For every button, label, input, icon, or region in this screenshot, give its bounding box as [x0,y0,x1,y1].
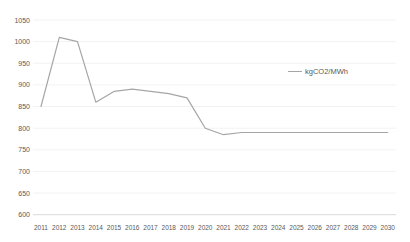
x-tick-label: 2012 [52,224,67,231]
x-tick-label: 2018 [162,224,177,231]
x-tick-label: 2029 [362,224,377,231]
x-tick-label: 2024 [271,224,286,231]
y-tick-label: 950 [18,60,30,67]
y-tick-label: 650 [18,190,30,197]
x-tick-label: 2019 [180,224,195,231]
legend: kgCO2/MWh [288,66,348,76]
y-tick-label: 600 [18,211,30,218]
legend-label: kgCO2/MWh [305,67,348,76]
x-tick-label: 2022 [235,224,250,231]
y-tick-label: 900 [18,81,30,88]
y-tick-label: 850 [18,103,30,110]
x-tick-label: 2014 [89,224,104,231]
x-tick-label: 2023 [253,224,268,231]
y-tick-label: 700 [18,168,30,175]
y-tick-label: 750 [18,146,30,153]
x-tick-label: 2028 [344,224,359,231]
x-tick-label: 2011 [34,224,48,231]
series-line-kgco2-mwh [41,37,388,134]
line-chart: 6006507007508008509009501000105020112012… [0,0,410,242]
x-tick-label: 2013 [70,224,85,231]
x-tick-label: 2026 [308,224,323,231]
x-tick-label: 2017 [143,224,158,231]
y-tick-label: 1050 [14,17,30,24]
y-tick-label: 1000 [14,38,30,45]
x-tick-label: 2020 [198,224,213,231]
x-tick-label: 2016 [125,224,140,231]
y-tick-label: 800 [18,125,30,132]
x-tick-label: 2015 [107,224,122,231]
x-tick-label: 2025 [289,224,304,231]
x-tick-label: 2030 [381,224,396,231]
x-tick-label: 2021 [216,224,231,231]
x-tick-label: 2027 [326,224,341,231]
chart-canvas: 6006507007508008509009501000105020112012… [0,0,410,242]
legend-line-marker [288,71,302,72]
